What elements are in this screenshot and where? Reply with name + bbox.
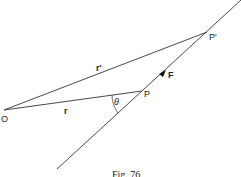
point-p-label: P [144,89,150,99]
figure-caption: Fig. 76 [112,169,140,177]
point-o-label: O [1,114,8,124]
force-arrow-icon [159,70,166,77]
vector-r-label: r [64,106,68,116]
diagram-canvas: O P P' r r' F θ Fig. 76 [0,0,241,177]
vector-r-prime-label: r' [96,63,102,73]
line-of-action [57,0,241,169]
vector-r-line [4,91,142,110]
angle-theta-label: θ [114,97,119,107]
point-p-prime-label: P' [209,32,217,42]
force-f-label: F [168,70,174,80]
vector-r-prime-line [4,32,207,110]
